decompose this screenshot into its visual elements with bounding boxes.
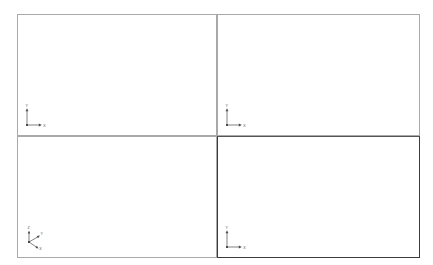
orientation-triad-2d: Y X bbox=[223, 105, 259, 131]
viewport-bottom-right[interactable]: Y X bbox=[217, 136, 420, 258]
viewport-top-left[interactable]: Y X bbox=[17, 14, 217, 136]
x-axis-label: X bbox=[243, 246, 246, 250]
orientation-triad-3d: Z Y X bbox=[23, 227, 59, 253]
x-axis-arrowhead bbox=[36, 246, 39, 249]
origin-marker bbox=[28, 241, 30, 243]
x-axis-arrowhead bbox=[239, 124, 242, 127]
y-axis-arrowhead bbox=[37, 236, 40, 239]
x-axis-label: X bbox=[243, 124, 246, 128]
origin-marker bbox=[226, 246, 228, 248]
x-axis-label: X bbox=[43, 124, 46, 128]
origin-marker bbox=[26, 124, 28, 126]
y-axis-arrowhead bbox=[226, 230, 229, 233]
viewport-top-right[interactable]: Y X bbox=[217, 14, 420, 136]
application-window: Y X Y X bbox=[0, 0, 433, 265]
y-axis-label: Y bbox=[226, 104, 229, 108]
y-axis-arrowhead bbox=[26, 108, 29, 111]
z-axis-arrowhead bbox=[28, 230, 31, 233]
y-axis-arrowhead bbox=[226, 108, 229, 111]
orientation-triad-2d: Y X bbox=[23, 105, 59, 131]
x-axis-line bbox=[29, 242, 37, 248]
y-axis-line bbox=[29, 237, 39, 243]
viewport-bottom-left[interactable]: Z Y X bbox=[17, 136, 217, 258]
x-axis-label: X bbox=[39, 247, 42, 251]
z-axis-label: Z bbox=[28, 226, 31, 230]
y-axis-label: Y bbox=[226, 226, 229, 230]
x-axis-arrowhead bbox=[239, 246, 242, 249]
orientation-triad-2d: Y X bbox=[223, 227, 259, 253]
origin-marker bbox=[226, 124, 228, 126]
y-axis-label: Y bbox=[26, 104, 29, 108]
viewport-grid: Y X Y X bbox=[17, 14, 420, 258]
x-axis-arrowhead bbox=[39, 124, 42, 127]
y-axis-label: Y bbox=[41, 232, 44, 236]
